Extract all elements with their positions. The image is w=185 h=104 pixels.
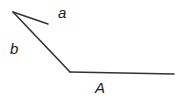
label-a: a xyxy=(58,4,66,21)
angle-diagram: a b A xyxy=(0,0,185,104)
label-b: b xyxy=(10,40,18,57)
segment-A xyxy=(70,72,174,74)
label-A: A xyxy=(94,79,105,96)
